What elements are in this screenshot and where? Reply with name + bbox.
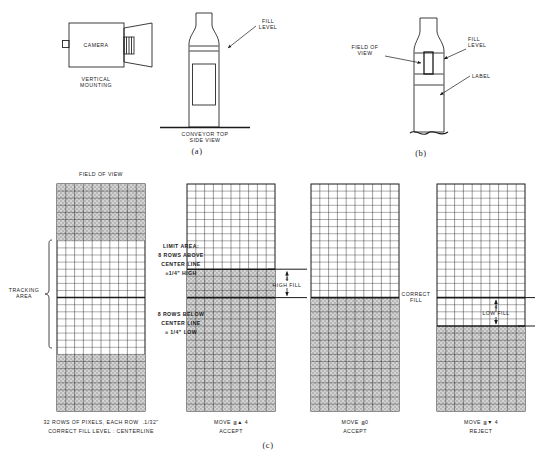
limit-area-heading: LIMIT AREA:: [163, 243, 199, 249]
panel-c-grid-3: [311, 184, 399, 411]
panel-b-field-of-view-label: FIELD OF VIEW: [352, 44, 379, 57]
correct-fill-label: CORRECT FILL: [402, 291, 431, 304]
panel-c-grid-1: [45, 184, 145, 411]
limit-above-line-2: CENTER LINE: [161, 261, 201, 267]
panel-a-fill-level-label: FILL LEVEL: [259, 18, 277, 31]
limit-above-line-1: 8 ROWS ABOVE: [158, 252, 204, 258]
camera-label: CAMERA: [84, 42, 109, 48]
panel-b-fill-level-label: FILL LEVEL: [468, 36, 486, 49]
panel-a-bottle: [160, 13, 256, 128]
panel-c-field-of-view-label: FIELD OF VIEW: [79, 171, 123, 177]
grid-3-caption-1: MOVE ≦0: [342, 419, 369, 425]
grid-4-caption-1: MOVE ≦▼ 4: [464, 419, 498, 425]
limit-below-line-2: CENTER LINE: [161, 320, 201, 326]
limit-below-line-3: ≡ 1/4" LOW: [165, 329, 197, 335]
low-fill-label: LOW FILL: [482, 310, 509, 316]
limit-below-line-1: 8 ROWS BELOW: [158, 311, 205, 317]
grid-3-caption-2: ACCEPT: [343, 428, 367, 434]
panel-a-letter: (a): [192, 146, 203, 156]
panel-c-grid-4: [437, 184, 535, 411]
panel-c-letter: (c): [263, 440, 274, 450]
footnote-line-2: CORRECT FILL LEVEL : CENTERLINE: [48, 428, 154, 434]
footnote-line-1: 32 ROWS OF PIXELS, EACH ROW .1/32": [43, 419, 158, 425]
panel-c-grid-2: [187, 184, 307, 411]
grid-2-caption-2: ACCEPT: [219, 428, 243, 434]
grid-2-caption-1: MOVE ≦▲ 4: [214, 419, 248, 425]
tracking-area-label: TRACKING AREA: [9, 287, 39, 300]
vertical-mounting-label: VERTICAL MOUNTING: [80, 76, 112, 89]
panel-b-label-label: LABEL: [472, 73, 490, 79]
high-fill-label: HIGH FILL: [273, 282, 302, 288]
technical-figure: CAMERA VERTICAL MOUNTING FILL LEVEL CONV…: [0, 0, 535, 461]
grid-4-caption-2: REJECT: [470, 428, 493, 434]
limit-above-line-3: ≡1/4" HIGH: [165, 270, 197, 276]
panel-b-letter: (b): [415, 148, 426, 158]
conveyor-top-label: CONVEYOR TOP SIDE VIEW: [181, 131, 228, 144]
figure-drawing: [0, 0, 535, 461]
panel-b-bottle: [385, 18, 470, 134]
